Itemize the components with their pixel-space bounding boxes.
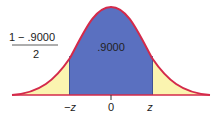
normal-curve-diagram: .9000 1 − .9000 2 −z 0 z — [0, 0, 222, 117]
tail-fraction-numerator: 1 − .9000 — [9, 31, 55, 43]
center-area-label: .9000 — [97, 41, 125, 53]
axis-label-z: z — [146, 101, 153, 113]
left-tail-area — [10, 0, 70, 96]
axis-label-zero: 0 — [108, 101, 114, 113]
axis-label-neg-z: −z — [64, 101, 76, 113]
right-tail-area — [152, 0, 212, 96]
tail-fraction-denominator: 2 — [33, 48, 39, 60]
